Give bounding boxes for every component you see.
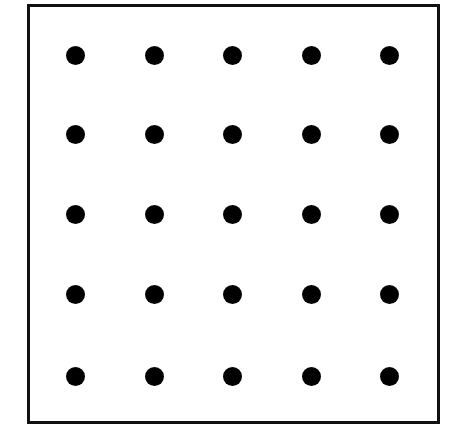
- dot-r5-c4: [302, 367, 321, 386]
- dot-r1-c2: [145, 46, 164, 65]
- dot-r1-c5: [380, 46, 399, 65]
- dot-r2-c2: [145, 125, 164, 144]
- dot-r4-c4: [302, 285, 321, 304]
- dot-r3-c1: [66, 205, 85, 224]
- dot-r2-c4: [302, 125, 321, 144]
- dot-r2-c5: [380, 125, 399, 144]
- dot-r4-c1: [66, 285, 85, 304]
- dot-r2-c1: [66, 125, 85, 144]
- dot-r1-c4: [302, 46, 321, 65]
- dot-r3-c4: [302, 205, 321, 224]
- dot-r4-c2: [145, 285, 164, 304]
- dot-r2-c3: [223, 125, 242, 144]
- dot-r5-c3: [223, 367, 242, 386]
- dot-r4-c3: [223, 285, 242, 304]
- dot-r1-c3: [223, 46, 242, 65]
- dot-r3-c5: [380, 205, 399, 224]
- dot-r5-c5: [380, 367, 399, 386]
- dot-r3-c2: [145, 205, 164, 224]
- dot-r5-c1: [66, 367, 85, 386]
- dot-r1-c1: [66, 46, 85, 65]
- dot-r5-c2: [145, 367, 164, 386]
- dot-r4-c5: [380, 285, 399, 304]
- dot-r3-c3: [223, 205, 242, 224]
